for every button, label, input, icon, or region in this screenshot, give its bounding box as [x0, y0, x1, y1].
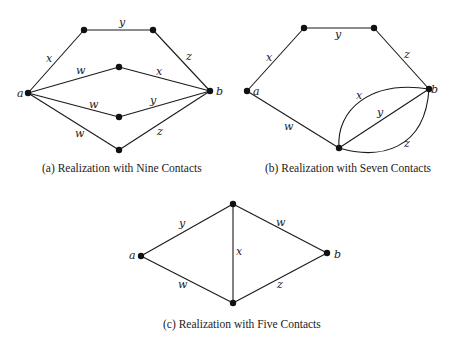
edge-label: w — [178, 278, 188, 291]
caption-b: (b) Realization with Seven Contacts — [265, 162, 432, 175]
figure-a: a b x y z w x w y w z (a) Realization wi… — [17, 16, 223, 175]
figure-c: a b y w x w z (c) Realization with Five … — [129, 201, 341, 331]
edge-b-y-straight — [339, 89, 429, 148]
edge-label: x — [356, 89, 363, 102]
terminal-label-b: b — [431, 83, 438, 96]
edge-b-z — [374, 28, 429, 89]
edge-a-y2 — [119, 91, 210, 117]
node-b-p1 — [301, 25, 307, 31]
node-a-terminal-b — [207, 88, 213, 94]
node-a-p2 — [150, 27, 156, 33]
edge-label: w — [89, 98, 99, 111]
edge-label: w — [284, 120, 294, 133]
node-b-p3 — [336, 145, 342, 151]
edge-label: x — [236, 245, 243, 258]
edge-label: z — [156, 125, 163, 138]
terminal-label-b: b — [216, 85, 223, 98]
node-c-top — [230, 201, 236, 207]
edge-c-y — [141, 204, 233, 256]
terminal-label-a: a — [253, 85, 260, 98]
edge-label: w — [276, 216, 286, 229]
terminal-label-b: b — [334, 248, 341, 261]
node-b-terminal-a — [244, 88, 250, 94]
edge-label: z — [276, 278, 283, 291]
node-b-p2 — [371, 25, 377, 31]
edge-label: w — [76, 64, 86, 77]
edge-label: x — [266, 51, 273, 64]
node-a-p3 — [116, 64, 122, 70]
terminal-label-a: a — [17, 87, 24, 100]
edge-label: z — [403, 137, 410, 150]
edge-a-z — [153, 30, 210, 91]
edge-a-x — [28, 30, 84, 93]
edge-a-w3 — [28, 93, 119, 150]
node-a-p4 — [116, 114, 122, 120]
edge-label: y — [118, 16, 126, 29]
edge-label: x — [46, 52, 53, 65]
edge-label: z — [185, 50, 192, 63]
switching-network-diagram: a b x y z w x w y w z (a) Realization wi… — [0, 0, 455, 342]
node-c-bottom — [230, 300, 236, 306]
node-c-terminal-a — [138, 253, 144, 259]
node-c-terminal-b — [324, 250, 330, 256]
edge-label: w — [75, 127, 85, 140]
edge-label: y — [149, 94, 157, 107]
edge-label: x — [156, 65, 163, 78]
figure-b: a b x y z w x y z (b) Realization with S… — [244, 25, 438, 175]
edge-label: y — [376, 106, 384, 119]
caption-c: (c) Realization with Five Contacts — [163, 318, 321, 331]
edge-b-x — [247, 28, 304, 91]
node-a-p5 — [116, 147, 122, 153]
edge-label: y — [178, 217, 186, 230]
node-a-p1 — [81, 27, 87, 33]
edge-label: y — [334, 28, 342, 41]
edge-label: z — [403, 48, 410, 61]
caption-a: (a) Realization with Nine Contacts — [42, 162, 202, 175]
edge-a-w1 — [28, 67, 119, 93]
edge-a-x2 — [119, 67, 210, 91]
node-a-terminal-a — [25, 90, 31, 96]
edge-a-w2 — [28, 93, 119, 117]
edge-a-z2 — [119, 91, 210, 150]
edge-b-z-arc — [339, 89, 429, 152]
terminal-label-a: a — [129, 249, 136, 262]
